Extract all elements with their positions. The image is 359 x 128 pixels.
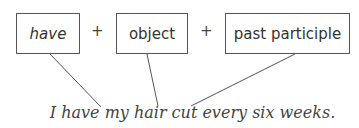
box-have-label: have	[30, 25, 67, 43]
example-sentence: I have my hair cut every six weeks.	[0, 103, 359, 122]
box-past-participle-label: past participle	[234, 25, 341, 43]
plus-operator-1: +	[91, 22, 104, 40]
box-have: have	[16, 13, 80, 54]
plus-operator-2: +	[200, 22, 213, 40]
connector-have	[50, 54, 101, 107]
connector-object	[147, 54, 158, 106]
box-object: object	[116, 13, 188, 54]
connector-past-participle	[191, 54, 295, 106]
box-object-label: object	[129, 25, 175, 43]
box-past-participle: past participle	[225, 13, 350, 54]
